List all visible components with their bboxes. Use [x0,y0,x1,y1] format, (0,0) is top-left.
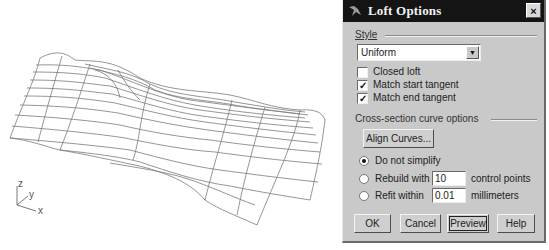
close-button[interactable]: × [526,3,541,18]
match-start-tangent-checkbox[interactable]: ✓ [357,80,368,91]
match-start-tangent-label: Match start tangent [373,79,459,90]
dialog-title: Loft Options [368,3,442,19]
loft-app-icon [348,4,362,18]
style-group-divider [385,35,537,37]
cross-section-group-label: Cross-section curve options [355,113,478,124]
dialog-titlebar[interactable]: Loft Options × [343,0,544,22]
rebuild-with-label: Rebuild with [375,173,429,184]
rebuild-with-radio[interactable] [359,174,369,184]
cross-section-group-divider [491,119,537,121]
refit-within-radio[interactable] [359,191,369,201]
screenshot-stage: z y x Loft Options × Style Uniform ▼ Clo… [0,0,549,250]
do-not-simplify-label: Do not simplify [375,155,441,166]
help-button[interactable]: Help [497,214,535,233]
match-end-tangent-label: Match end tangent [373,92,456,103]
axis-x-label: x [38,205,43,216]
tolerance-input[interactable]: 0.01 [432,188,466,203]
align-curves-button[interactable]: Align Curves... [363,129,434,148]
axis-z-label: z [18,178,23,189]
control-points-input[interactable]: 10 [432,171,466,186]
loft-options-dialog: Loft Options × Style Uniform ▼ Closed lo… [342,0,546,243]
preview-button[interactable]: Preview [447,214,489,233]
refit-within-label: Refit within [375,190,424,201]
cancel-button[interactable]: Cancel [400,214,441,233]
closed-loft-checkbox[interactable] [357,67,368,78]
closed-loft-label: Closed loft [373,66,420,77]
do-not-simplify-radio[interactable] [359,156,369,166]
loft-surface-wireframe [0,0,335,250]
chevron-down-icon[interactable]: ▼ [466,46,479,59]
style-group-label: Style [355,29,377,40]
match-end-tangent-checkbox[interactable]: ✓ [357,93,368,104]
style-dropdown[interactable]: Uniform ▼ [357,44,481,61]
control-points-unit-label: control points [471,173,530,184]
close-icon: × [530,5,536,17]
perspective-viewport[interactable]: z y x [0,0,335,250]
style-dropdown-value: Uniform [361,47,396,58]
ok-button[interactable]: OK [354,214,391,233]
tolerance-unit-label: millimeters [471,190,519,201]
axis-y-label: y [29,189,34,200]
